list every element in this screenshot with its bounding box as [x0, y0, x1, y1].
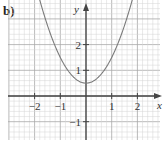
x-axis-label: x [156, 99, 162, 111]
x-tick-label: 1 [109, 100, 115, 112]
y-axis-arrow-icon [83, 3, 89, 11]
y-axis-label: y [73, 3, 79, 15]
y-tick-label: 2 [76, 39, 82, 51]
x-tick-label: −2 [29, 100, 41, 112]
y-tick-label: 1 [76, 64, 82, 76]
y-tick-label: −1 [69, 116, 81, 128]
x-tick-label: 2 [135, 100, 141, 112]
x-tick-label: −1 [54, 100, 66, 112]
graph: xy−2−11221−1 [0, 0, 166, 142]
